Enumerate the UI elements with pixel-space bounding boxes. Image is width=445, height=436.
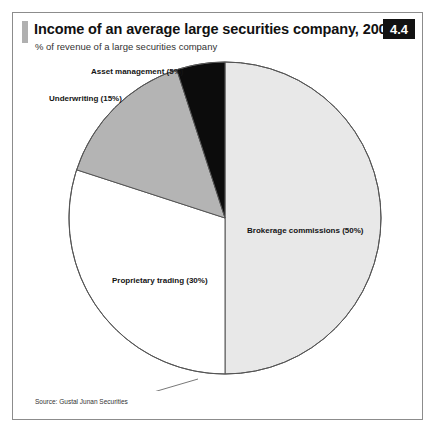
pie-slices: [69, 62, 381, 374]
figure-number-badge: 4.4: [383, 19, 415, 39]
figure-header: Income of an average large securities co…: [13, 13, 422, 61]
title-accent-bar: [22, 21, 28, 43]
source-leader-line: [123, 379, 198, 391]
pie-label-brokerage-commissions: Brokerage commissions (50%): [247, 226, 364, 235]
pie-label-proprietary-trading: Proprietary trading (30%): [112, 276, 208, 285]
page-title: Income of an average large securities co…: [34, 21, 395, 37]
pie-label-asset-management: Asset management (5%): [91, 67, 183, 76]
pie-slice-brokerage-commissions[interactable]: [225, 62, 381, 374]
chart-subtitle: % of revenue of a large securities compa…: [35, 41, 217, 52]
source-note: Source: Gustal Junan Securities: [35, 398, 128, 405]
pie-chart: Asset management (5%) Underwriting (15%)…: [13, 61, 422, 391]
figure-panel: Income of an average large securities co…: [12, 12, 423, 420]
pie-label-underwriting: Underwriting (15%): [49, 94, 122, 103]
